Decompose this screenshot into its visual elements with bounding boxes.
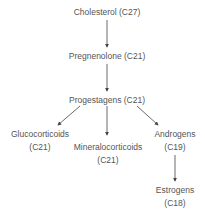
node-carbon-count: (C18) bbox=[156, 197, 194, 210]
node-label: Pregnenolone (C21) bbox=[69, 50, 146, 63]
node-label: Glucocorticoids bbox=[11, 128, 69, 141]
node-carbon-count: (C21) bbox=[11, 141, 69, 154]
node-progestagens: Progestagens (C21) bbox=[69, 94, 145, 107]
node-androgens: Androgens (C19) bbox=[154, 128, 195, 154]
node-pregnenolone: Pregnenolone (C21) bbox=[69, 50, 146, 63]
node-carbon-count: (C21) bbox=[74, 154, 143, 167]
node-label: Cholesterol (C27) bbox=[74, 6, 141, 19]
node-label: Estrogens bbox=[156, 184, 194, 197]
node-estrogens: Estrogens (C18) bbox=[156, 184, 194, 210]
node-label: Androgens bbox=[154, 128, 195, 141]
node-carbon-count: (C19) bbox=[154, 141, 195, 154]
arrow-progestagens-to-glucocorticoids bbox=[58, 106, 80, 125]
node-mineralocorticoids: Mineralocorticoids (C21) bbox=[74, 141, 143, 167]
node-label: Progestagens (C21) bbox=[69, 94, 145, 107]
node-glucocorticoids: Glucocorticoids (C21) bbox=[11, 128, 69, 154]
node-label: Mineralocorticoids bbox=[74, 141, 143, 154]
arrow-progestagens-to-androgens bbox=[137, 106, 158, 125]
node-cholesterol: Cholesterol (C27) bbox=[74, 6, 141, 19]
